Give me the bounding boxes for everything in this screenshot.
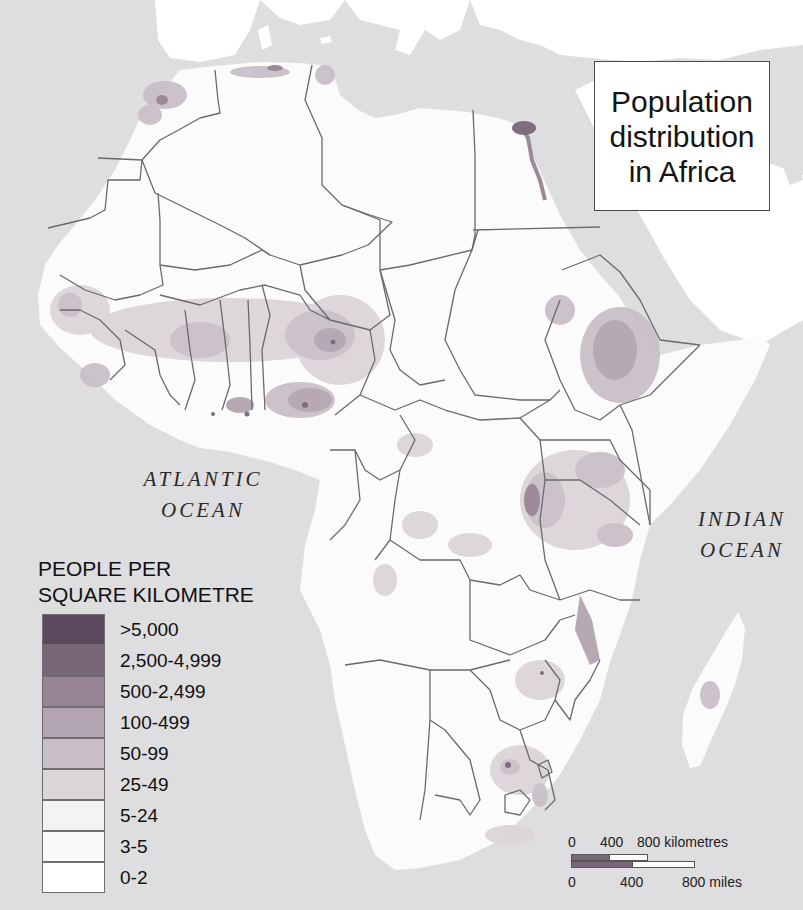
legend-item: 100-499 [42,707,221,738]
legend-label: 50-99 [120,743,169,765]
scale-km-800: 800 kilometres [637,834,728,850]
legend-swatch [42,831,105,862]
legend-item: 500-2,499 [42,676,221,707]
map-title-line-2: distribution [609,119,754,154]
legend-item: 50-99 [42,738,221,769]
atlantic-ocean-label: ATLANTIC OCEAN [118,464,288,526]
atlantic-ocean-line-2: OCEAN [118,495,288,526]
legend-label: 25-49 [120,774,169,796]
legend-swatch [42,738,105,769]
legend-swatch [42,676,105,707]
legend-swatch [42,614,105,645]
map-title-line-1: Population [611,84,753,119]
legend-item: >5,000 [42,614,221,645]
scale-mi-800: 800 miles [682,874,742,890]
density-legend: >5,000 2,500-4,999 500-2,499 100-499 50-… [42,614,221,893]
legend-label: 100-499 [120,712,190,734]
legend-label: >5,000 [120,619,179,641]
legend-label: 500-2,499 [120,681,206,703]
indian-ocean-line-2: OCEAN [682,535,802,566]
legend-item: 5-24 [42,800,221,831]
scale-mi-0: 0 [568,874,576,890]
scale-km-400: 400 [600,834,623,850]
legend-title: PEOPLE PER SQUARE KILOMETRE [38,556,254,608]
legend-item: 3-5 [42,831,221,862]
legend-label: 2,500-4,999 [120,650,221,672]
scale-bar: 0 400 800 kilometres 0 400 800 miles [560,832,800,902]
map-title-line-3: in Africa [629,154,736,189]
legend-label: 3-5 [120,836,147,858]
legend-swatch [42,862,105,893]
scale-mi-light-segment [632,861,695,868]
legend-item: 25-49 [42,769,221,800]
legend-swatch [42,707,105,738]
legend-item: 0-2 [42,862,221,893]
scale-km-0: 0 [568,834,576,850]
scale-mi-400: 400 [620,874,643,890]
legend-swatch [42,769,105,800]
indian-ocean-line-1: INDIAN [682,504,802,535]
scale-km-light-segment [609,854,648,861]
atlantic-ocean-line-1: ATLANTIC [118,464,288,495]
legend-swatch [42,645,105,676]
legend-label: 0-2 [120,867,147,889]
map-title-box: Population distribution in Africa [594,61,770,211]
legend-label: 5-24 [120,805,158,827]
legend-item: 2,500-4,999 [42,645,221,676]
legend-swatch [42,800,105,831]
scale-mi-dark-segment [571,861,633,868]
legend-title-line-2: SQUARE KILOMETRE [38,582,254,608]
legend-title-line-1: PEOPLE PER [38,556,254,582]
scale-km-dark-segment [571,854,610,861]
indian-ocean-label: INDIAN OCEAN [682,504,802,566]
